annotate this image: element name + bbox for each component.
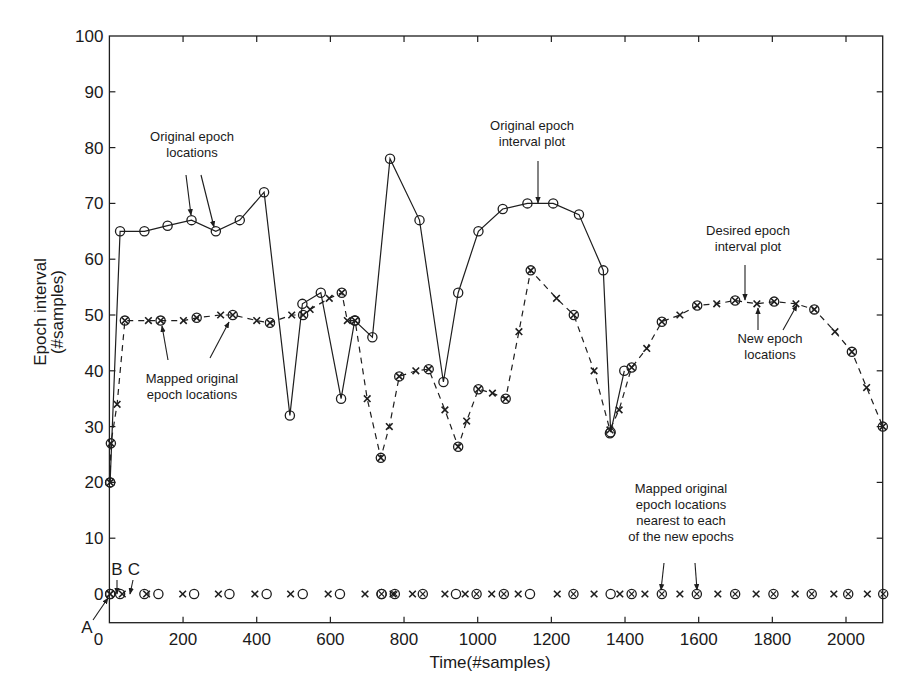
- annotation-arrow: [783, 305, 797, 330]
- annotation-text: Mapped original: [146, 371, 239, 386]
- circle-marker: [154, 589, 163, 598]
- x-marker: [616, 407, 623, 414]
- x-marker: [753, 591, 760, 598]
- x-marker: [462, 591, 469, 598]
- x-tick-label: 1400: [606, 630, 644, 649]
- x-marker: [489, 390, 496, 397]
- x-marker: [832, 328, 839, 335]
- x-axis-label: Time(#samples): [429, 653, 550, 672]
- x-marker: [307, 306, 314, 313]
- annotation-text: epoch locations: [636, 497, 727, 512]
- x-marker: [809, 591, 814, 596]
- x-marker: [413, 368, 420, 375]
- x-marker: [515, 591, 522, 598]
- x-marker: [715, 591, 722, 598]
- annotation-text: nearest to each: [636, 513, 726, 528]
- annotation-text: interval plot: [715, 239, 782, 254]
- x-marker: [267, 320, 274, 327]
- x-marker: [591, 368, 598, 375]
- circle-marker: [298, 589, 307, 598]
- x-marker: [811, 306, 818, 313]
- x-marker: [554, 591, 561, 598]
- x-marker: [463, 418, 470, 425]
- x-marker: [420, 591, 425, 596]
- x-marker: [643, 345, 650, 352]
- x-marker: [362, 591, 369, 598]
- x-tick-label: 200: [169, 630, 197, 649]
- annotation: Mapped originalepoch locationsnearest to…: [628, 481, 734, 590]
- x-marker: [694, 302, 701, 309]
- y-axis-label: Epoch interval (#samples): [31, 258, 67, 366]
- y-tick-label: 0: [94, 585, 103, 604]
- annotation-arrow: [661, 563, 664, 590]
- annotation-text: Original epoch: [490, 118, 574, 133]
- y-tick-label: 100: [75, 27, 103, 46]
- annotation-text: Original epoch: [150, 129, 234, 144]
- x-marker: [409, 591, 416, 598]
- solid-line: [110, 159, 624, 483]
- y-axis-label-line2: (#samples): [48, 270, 67, 354]
- x-marker: [846, 591, 851, 596]
- annotation-arrow: [210, 322, 229, 358]
- y-tick-label: 90: [84, 83, 103, 102]
- annotation-text: locations: [744, 347, 796, 362]
- y-tick-label: 30: [84, 418, 103, 437]
- x-marker: [659, 591, 664, 596]
- circle-marker: [335, 589, 344, 598]
- point-letter-label: B: [111, 560, 122, 579]
- point-letter-label: A: [81, 618, 93, 637]
- x-tick-label: 1800: [753, 630, 791, 649]
- x-marker: [442, 407, 449, 414]
- circle-marker: [190, 589, 199, 598]
- circle-marker: [225, 589, 234, 598]
- y-tick-label: 60: [84, 250, 103, 269]
- x-marker: [677, 312, 684, 319]
- annotation: Mapped originalepoch locations: [146, 322, 239, 402]
- x-marker: [475, 386, 482, 393]
- x-marker: [122, 317, 129, 324]
- y-tick-label: 10: [84, 529, 103, 548]
- x-marker: [252, 591, 259, 598]
- y-tick-label: 70: [84, 194, 103, 213]
- x-tick-label: 1600: [680, 630, 718, 649]
- annotation: Desired epochinterval plot: [706, 223, 790, 300]
- x-tick-label: 1200: [532, 630, 570, 649]
- annotation: New epochlocations: [737, 305, 802, 362]
- x-marker: [591, 591, 598, 598]
- x-marker: [325, 591, 332, 598]
- x-marker: [488, 591, 495, 598]
- x-marker: [501, 591, 506, 596]
- annotation-text: of the new epochs: [628, 529, 734, 544]
- y-tick-label: 40: [84, 362, 103, 381]
- circle-marker: [525, 589, 534, 598]
- annotation-arrow: [130, 580, 133, 594]
- x-marker: [215, 591, 222, 598]
- y-tick-label: 50: [84, 306, 103, 325]
- x-marker: [502, 395, 509, 402]
- x-marker: [628, 364, 635, 371]
- annotation-text: Mapped original: [635, 481, 728, 496]
- annotation-arrow: [201, 175, 214, 227]
- circle-marker: [451, 589, 460, 598]
- x-marker: [571, 591, 576, 596]
- series-3: [107, 591, 871, 598]
- annotation-arrow: [695, 563, 697, 590]
- x-marker: [379, 591, 384, 596]
- x-marker: [326, 295, 333, 302]
- x-marker: [474, 591, 479, 596]
- x-marker: [864, 591, 871, 598]
- x-marker: [831, 591, 838, 598]
- x-tick-label: 1000: [459, 630, 497, 649]
- x-tick-label: 2000: [827, 630, 865, 649]
- circle-marker: [262, 589, 271, 598]
- x-tick-label: 0: [94, 630, 103, 649]
- annotation-text: New epoch: [737, 331, 802, 346]
- epoch-interval-chart: 0200400600800100012001400160018002000010…: [0, 0, 909, 699]
- x-marker: [396, 373, 403, 380]
- point-letter-label: C: [128, 560, 140, 579]
- x-tick-label: 800: [390, 630, 418, 649]
- circle-marker: [606, 589, 615, 598]
- x-marker: [677, 591, 684, 598]
- series-5: [106, 589, 888, 598]
- x-marker: [694, 591, 699, 596]
